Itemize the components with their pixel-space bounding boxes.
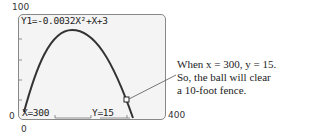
trace-y-readout: Y=15 [92,107,114,118]
annotation-line-3: a 10-foot fence. [177,84,282,97]
annotation-leader-line [129,75,176,99]
trace-x-readout: X=300 [22,107,49,118]
annotation-line-2: So, the ball will clear [177,71,282,84]
equation-label: Y1=-0.0032X²+X+3 [21,15,108,26]
parabola-curve [24,30,133,118]
annotation-line-1: When x = 300, y = 15. [177,58,282,71]
annotation-text: When x = 300, y = 15. So, the ball will … [177,58,282,97]
trace-point-marker [124,97,129,102]
